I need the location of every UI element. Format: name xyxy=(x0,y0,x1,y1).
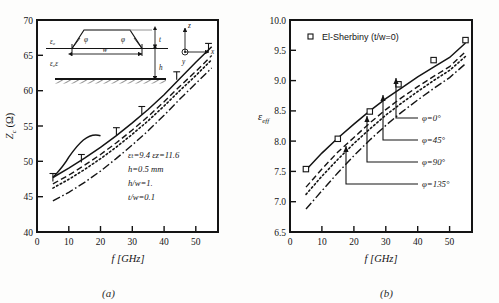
plot-frame-b xyxy=(290,20,472,232)
y-tick-label-a-0: 40 xyxy=(24,228,34,238)
chart-panel-a: 40 45 50 55 60 xyxy=(0,0,249,303)
inset-angle-left-label: φ xyxy=(84,36,88,44)
y-tick-label-b-1: 7.0 xyxy=(274,197,286,207)
x-axis-title-a: f [GHz] xyxy=(112,253,145,264)
inset-angle-right-label: φ xyxy=(121,36,125,44)
svg-text:εeff: εeff xyxy=(258,111,270,125)
y-tick-label-b-0: 6.5 xyxy=(274,228,286,238)
phi-label-0: φ=0° xyxy=(422,113,441,123)
legend-b: El-Sherbiny (t/w=0) xyxy=(308,32,399,42)
chart-a-svg: 40 45 50 55 60 xyxy=(0,0,249,290)
phi-label-135: φ=135° xyxy=(422,179,450,189)
legend-label-b: El-Sherbiny (t/w=0) xyxy=(322,32,399,42)
x-tick-label-a-4: 40 xyxy=(159,237,169,247)
x-tick-label-b-4: 40 xyxy=(413,237,423,247)
x-tick-label-b-1: 10 xyxy=(317,237,327,247)
data-point-b-0 xyxy=(303,166,308,171)
y-tick-label-b-6: 9.5 xyxy=(274,46,286,56)
annotation-a-3: t/w=0.1 xyxy=(128,192,155,202)
y-tick-label-a-5: 65 xyxy=(24,51,34,61)
y-tick-label-a-3: 55 xyxy=(24,122,34,132)
x-tick-label-b-2: 20 xyxy=(349,237,359,247)
y-tick-label-a-4: 60 xyxy=(24,86,34,96)
figure-root: 40 45 50 55 60 xyxy=(0,0,499,303)
data-point-b-5 xyxy=(463,37,468,42)
x-tick-label-a-2: 20 xyxy=(96,237,106,247)
y-tick-label-b-5: 9.0 xyxy=(274,76,286,86)
inset-width-label: w xyxy=(103,46,108,54)
x-tick-label-b-5: 50 xyxy=(445,237,455,247)
x-tick-label-a-0: 0 xyxy=(35,237,40,247)
x-tick-label-a-1: 10 xyxy=(64,237,74,247)
y-tick-label-b-2: 7.5 xyxy=(274,167,286,177)
inset-eps0eps-label: ε₀ε xyxy=(50,60,58,68)
phi-label-90: φ=90° xyxy=(422,157,446,167)
data-point-b-1 xyxy=(335,136,340,141)
y-axis-title-b-sub: eff xyxy=(262,117,270,125)
x-tick-label-a-5: 50 xyxy=(191,237,201,247)
subfigure-caption-b: (b) xyxy=(262,287,499,299)
svg-text:Zc (Ω): Zc (Ω) xyxy=(4,112,18,139)
annotation-a-0: εₜ=9.4 εᴢ=11.6 xyxy=(128,150,180,160)
x-tick-label-b-3: 30 xyxy=(381,237,391,247)
subfigure-caption-a: (a) xyxy=(0,287,233,299)
y-tick-label-a-1: 45 xyxy=(24,192,34,202)
annotation-a-2: h/w=1. xyxy=(128,178,153,188)
inset-axis-z-label: z xyxy=(187,22,191,30)
x-axis-title-b: f [GHz] xyxy=(365,253,398,264)
y-axis-title-b: εeff xyxy=(258,111,270,125)
inset-eps0-top-label: ε₀ xyxy=(50,38,56,46)
y-tick-label-a-2: 50 xyxy=(24,157,34,167)
x-tick-label-a-3: 30 xyxy=(128,237,138,247)
chart-b-svg: 6.5 7.0 7.5 8.0 8.5 xyxy=(250,0,499,290)
data-point-b-2 xyxy=(367,109,372,114)
y-tick-label-a-6: 70 xyxy=(24,16,34,26)
inset-height-label: h xyxy=(159,64,163,72)
chart-panel-b: 6.5 7.0 7.5 8.0 8.5 xyxy=(250,0,499,303)
y-tick-label-b-7: 10.0 xyxy=(269,16,286,26)
ground-plane-hatch xyxy=(55,80,166,84)
data-point-b-4 xyxy=(431,57,436,62)
annotation-a-1: h=0.5 mm xyxy=(128,164,163,174)
phi-label-45: φ=45° xyxy=(422,135,446,145)
y-tick-label-b-4: 8.5 xyxy=(274,106,286,116)
y-tick-label-b-3: 8.0 xyxy=(274,137,286,147)
y-axis-title-a-unit: (Ω) xyxy=(4,112,16,127)
y-axis-title-a: Zc (Ω) xyxy=(4,112,18,139)
x-tick-label-b-0: 0 xyxy=(288,237,293,247)
